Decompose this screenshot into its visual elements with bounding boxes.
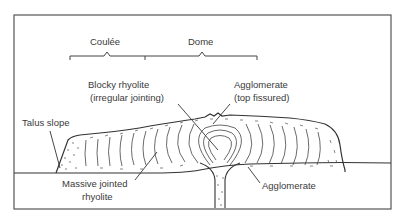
agglomerate-top-leader: [213, 104, 230, 124]
dome-label: Dome: [188, 36, 213, 47]
dome-cross-section-diagram: Coulée Dome Blocky rhyolite (irregular j…: [0, 0, 404, 221]
blocky-rhyolite-leader: [178, 104, 218, 150]
massive-rhyolite-label: rhyolite: [82, 191, 113, 202]
dome-outline: [56, 113, 345, 173]
agglomerate-bottom-leader: [248, 167, 260, 183]
top-fissured-label: (top fissured): [234, 92, 289, 103]
talus-slope-stipple: [61, 142, 78, 169]
coulee-label: Coulée: [90, 36, 120, 47]
irregular-jointing-label: (irregular jointing): [90, 92, 164, 103]
massive-jointed-leader: [135, 152, 157, 180]
agglomerate-bottom-label: Agglomerate: [262, 180, 316, 191]
feeder-conduit: [200, 163, 240, 208]
coulee-bracket: [70, 52, 145, 60]
dome-bracket: [145, 52, 257, 60]
agglomerate-top-label: Agglomerate: [234, 79, 288, 90]
blocky-rhyolite-label: Blocky rhyolite: [88, 79, 149, 90]
agglomerate-crust-stipple: [90, 119, 337, 169]
talus-slope-label: Talus slope: [22, 117, 70, 128]
talus-slope-leader: [50, 131, 60, 168]
massive-jointed-label: Massive jointed: [62, 178, 127, 189]
